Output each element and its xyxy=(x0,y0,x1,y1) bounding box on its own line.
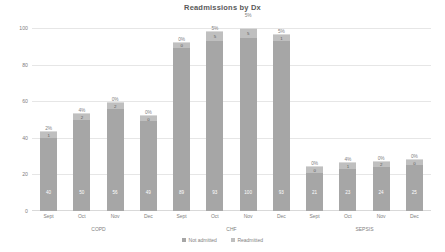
x-group-label: CHF xyxy=(165,226,298,232)
bar-slot: 4%123 xyxy=(331,28,364,211)
bar-slot: 4%250 xyxy=(65,28,98,211)
x-tick-label: Sept xyxy=(32,213,65,219)
bar-slot: 0%256 xyxy=(99,28,132,211)
bar-value-readmitted: 2 xyxy=(373,162,390,167)
bar-sepsis-sept[interactable]: 0%021 xyxy=(306,28,323,211)
bar-group-sepsis: 0%0214%1230%2240%025 xyxy=(298,28,431,211)
x-tick-label: Dec xyxy=(265,213,298,219)
bar-value-not-admitted: 89 xyxy=(173,190,190,195)
x-tick-label: Sept xyxy=(165,213,198,219)
y-tick-label-60: 60 xyxy=(2,98,28,104)
bar-value-not-admitted: 100 xyxy=(240,190,257,195)
bar-slot: 0%025 xyxy=(398,28,431,211)
bar-segment-readmitted[interactable]: 5 xyxy=(240,28,257,38)
bar-slot: 5%5100 xyxy=(232,28,265,211)
bar-copd-nov[interactable]: 0%256 xyxy=(107,28,124,211)
chart-container: Readmissions by Dx 0 20 40 60 80 100 2%1… xyxy=(0,0,445,252)
y-tick-label-40: 40 xyxy=(2,135,28,141)
x-tick-label: Sept xyxy=(298,213,331,219)
bar-value-readmitted: 1 xyxy=(40,133,57,138)
legend-swatch-icon-not-admitted xyxy=(182,238,186,242)
bar-segment-not-admitted[interactable]: 93 xyxy=(206,41,223,211)
legend-item-not-admitted[interactable]: Not admitted xyxy=(182,237,217,243)
y-tick-label-0: 0 xyxy=(2,208,28,214)
x-month-row: SeptOctNovDec xyxy=(165,213,298,219)
bar-chf-oct[interactable]: 5%593 xyxy=(206,28,223,211)
bar-value-not-admitted: 50 xyxy=(73,190,90,195)
legend-swatch-icon-readmitted xyxy=(231,238,235,242)
bar-segment-not-admitted[interactable]: 21 xyxy=(306,173,323,211)
bar-value-readmitted: 1 xyxy=(339,164,356,169)
bar-copd-oct[interactable]: 4%250 xyxy=(73,28,90,211)
bar-slot: 0%089 xyxy=(165,28,198,211)
bar-value-readmitted: 2 xyxy=(107,103,124,108)
y-tick-label-20: 20 xyxy=(2,171,28,177)
bar-segment-not-admitted[interactable]: 24 xyxy=(373,167,390,211)
bar-segment-not-admitted[interactable]: 56 xyxy=(107,109,124,211)
bar-slot: 0%224 xyxy=(365,28,398,211)
bar-value-not-admitted: 93 xyxy=(206,190,223,195)
y-tick-label-80: 80 xyxy=(2,62,28,68)
bar-value-readmitted: 0 xyxy=(140,116,157,121)
bar-group-copd: 2%1404%2500%2560%049 xyxy=(32,28,165,211)
bar-slot: 5%593 xyxy=(198,28,231,211)
bar-segment-not-admitted[interactable]: 25 xyxy=(406,165,423,211)
bar-value-not-admitted: 25 xyxy=(406,190,423,195)
x-tick-label: Oct xyxy=(65,213,98,219)
bar-value-not-admitted: 21 xyxy=(306,190,323,195)
bar-value-not-admitted: 49 xyxy=(140,190,157,195)
legend-label-not-admitted: Not admitted xyxy=(189,237,217,243)
bar-chf-sept[interactable]: 0%089 xyxy=(173,28,190,211)
bar-percent-label: 5% xyxy=(234,13,263,18)
bar-segment-not-admitted[interactable]: 40 xyxy=(40,138,57,211)
x-group-label: SEPSIS xyxy=(298,226,431,232)
bar-value-readmitted: 0 xyxy=(406,160,423,165)
bar-value-not-admitted: 23 xyxy=(339,190,356,195)
bar-groups: 2%1404%2500%2560%0490%0895%5935%51005%19… xyxy=(32,28,431,211)
bar-value-not-admitted: 24 xyxy=(373,190,390,195)
x-month-row: SeptOctNovDec xyxy=(298,213,431,219)
x-group-sepsis: SeptOctNovDecSEPSIS xyxy=(298,213,431,232)
x-group-copd: SeptOctNovDecCOPD xyxy=(32,213,165,232)
legend-label-readmitted: Readmitted xyxy=(237,237,263,243)
bar-segment-not-admitted[interactable]: 50 xyxy=(73,120,90,212)
x-axis-labels: SeptOctNovDecCOPDSeptOctNovDecCHFSeptOct… xyxy=(32,213,431,232)
x-tick-label: Oct xyxy=(198,213,231,219)
bar-segment-not-admitted[interactable]: 49 xyxy=(140,121,157,211)
bar-sepsis-dec[interactable]: 0%025 xyxy=(406,28,423,211)
bar-segment-not-admitted[interactable]: 93 xyxy=(273,41,290,211)
bar-slot: 5%193 xyxy=(265,28,298,211)
x-month-row: SeptOctNovDec xyxy=(32,213,165,219)
x-group-label: COPD xyxy=(32,226,165,232)
bar-sepsis-oct[interactable]: 4%123 xyxy=(339,28,356,211)
x-tick-label: Nov xyxy=(99,213,132,219)
bar-value-readmitted: 5 xyxy=(206,34,223,39)
bar-chf-dec[interactable]: 5%193 xyxy=(273,28,290,211)
bar-slot: 0%021 xyxy=(298,28,331,211)
bar-copd-sept[interactable]: 2%140 xyxy=(40,28,57,211)
chart-legend: Not admitted Readmitted xyxy=(0,237,445,243)
bar-value-not-admitted: 93 xyxy=(273,190,290,195)
bar-copd-dec[interactable]: 0%049 xyxy=(140,28,157,211)
bar-value-readmitted: 5 xyxy=(240,31,257,36)
bar-segment-not-admitted[interactable]: 89 xyxy=(173,48,190,211)
bar-chf-nov[interactable]: 5%5100 xyxy=(240,28,257,211)
chart-title: Readmissions by Dx xyxy=(0,3,445,12)
x-group-chf: SeptOctNovDecCHF xyxy=(165,213,298,232)
x-tick-label: Dec xyxy=(132,213,165,219)
bar-sepsis-nov[interactable]: 0%224 xyxy=(373,28,390,211)
bar-group-chf: 0%0895%5935%51005%193 xyxy=(165,28,298,211)
bar-value-readmitted: 1 xyxy=(273,36,290,41)
bar-value-not-admitted: 40 xyxy=(40,190,57,195)
bar-segment-not-admitted[interactable]: 100 xyxy=(240,38,257,211)
bar-value-readmitted: 0 xyxy=(306,167,323,172)
y-tick-label-100: 100 xyxy=(2,25,28,31)
x-tick-label: Dec xyxy=(398,213,431,219)
bar-segment-readmitted[interactable]: 5 xyxy=(206,31,223,41)
x-tick-label: Nov xyxy=(232,213,265,219)
bar-segment-not-admitted[interactable]: 23 xyxy=(339,169,356,211)
x-tick-label: Oct xyxy=(331,213,364,219)
x-tick-label: Nov xyxy=(365,213,398,219)
bar-value-readmitted: 0 xyxy=(173,43,190,48)
legend-item-readmitted[interactable]: Readmitted xyxy=(231,237,263,243)
